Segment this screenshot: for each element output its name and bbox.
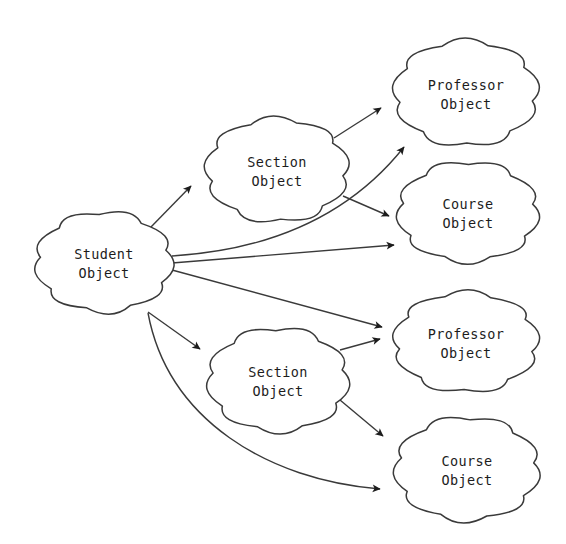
node-course-top[interactable]: CourseObject (396, 163, 539, 265)
node-label-line2-course-bottom: Object (441, 472, 492, 488)
edge-section-bottom-to-professor-bottom (340, 339, 380, 350)
nodes-layer: StudentObjectSectionObjectSectionObjectP… (35, 38, 540, 523)
node-label-line1-professor-top: Professor (428, 77, 505, 93)
cloud-shape-section-bottom (207, 329, 350, 435)
diagram-svg: StudentObjectSectionObjectSectionObjectP… (0, 0, 566, 544)
edge-section-top-to-course-top (343, 196, 389, 216)
node-label-line2-student: Object (78, 265, 129, 281)
cloud-shape-student (35, 212, 174, 314)
object-diagram-canvas: StudentObjectSectionObjectSectionObjectP… (0, 0, 566, 544)
node-label-line2-course-top: Object (442, 215, 493, 231)
edge-student-to-professor-bottom (172, 270, 382, 327)
node-student[interactable]: StudentObject (35, 212, 174, 314)
node-label-line1-course-bottom: Course (441, 453, 492, 469)
node-label-line1-course-top: Course (442, 196, 493, 212)
node-professor-bottom[interactable]: ProfessorObject (393, 290, 540, 392)
node-professor-top[interactable]: ProfessorObject (392, 38, 539, 145)
cloud-shape-course-bottom (393, 417, 540, 523)
node-section-top[interactable]: SectionObject (204, 116, 349, 222)
node-section-bottom[interactable]: SectionObject (207, 329, 350, 435)
node-label-line2-section-bottom: Object (252, 383, 303, 399)
node-course-bottom[interactable]: CourseObject (393, 417, 540, 523)
node-label-line1-section-top: Section (247, 154, 307, 170)
node-label-line1-section-bottom: Section (248, 364, 308, 380)
edge-section-top-to-professor-top (334, 108, 381, 138)
node-label-line1-professor-bottom: Professor (428, 326, 505, 342)
cloud-shape-course-top (396, 163, 539, 265)
edge-student-to-course-top (172, 245, 394, 263)
node-label-line1-student: Student (74, 246, 134, 262)
node-label-line2-section-top: Object (251, 173, 302, 189)
edge-section-bottom-to-course-bottom (340, 400, 383, 436)
node-label-line2-professor-bottom: Object (440, 345, 491, 361)
edge-student-to-section-top (150, 186, 191, 228)
node-label-line2-professor-top: Object (440, 96, 491, 112)
